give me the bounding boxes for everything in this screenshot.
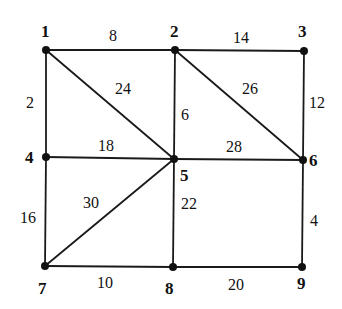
node-label-7: 7 bbox=[38, 279, 47, 298]
node-label-3: 3 bbox=[298, 22, 307, 41]
edge-weight-5-6: 28 bbox=[226, 138, 242, 155]
edge-6-9 bbox=[302, 160, 303, 267]
edge-5-7 bbox=[45, 159, 174, 266]
node-label-6: 6 bbox=[309, 151, 318, 170]
node-label-4: 4 bbox=[25, 148, 34, 167]
edge-weight-4-5: 18 bbox=[98, 137, 114, 154]
edge-weight-2-3: 14 bbox=[233, 29, 249, 46]
edge-weight-5-8: 22 bbox=[181, 195, 197, 212]
edge-5-6 bbox=[174, 159, 303, 160]
node-3 bbox=[300, 47, 308, 55]
edge-4-7 bbox=[45, 157, 46, 266]
node-6 bbox=[299, 156, 307, 164]
edge-weight-2-5: 6 bbox=[181, 106, 189, 123]
edge-weight-3-6: 12 bbox=[309, 94, 325, 111]
node-2 bbox=[171, 46, 179, 54]
node-1 bbox=[42, 46, 50, 54]
node-label-8: 8 bbox=[165, 279, 174, 298]
edge-weight-6-9: 4 bbox=[310, 212, 318, 229]
edge-5-8 bbox=[173, 159, 174, 267]
node-9 bbox=[298, 263, 306, 271]
edge-2-5 bbox=[174, 50, 175, 159]
node-7 bbox=[41, 262, 49, 270]
node-5 bbox=[170, 155, 178, 163]
edge-weight-8-9: 20 bbox=[228, 276, 244, 293]
edge-3-6 bbox=[303, 51, 304, 160]
edge-weight-2-6: 26 bbox=[242, 80, 258, 97]
node-label-1: 1 bbox=[41, 22, 50, 41]
edge-weight-1-4: 2 bbox=[26, 94, 34, 111]
node-label-9: 9 bbox=[297, 274, 306, 293]
edge-weight-7-8: 10 bbox=[97, 274, 113, 291]
node-4 bbox=[42, 153, 50, 161]
edge-weight-1-2: 8 bbox=[109, 27, 117, 44]
edge-weight-4-7: 16 bbox=[20, 209, 36, 226]
edge-2-3 bbox=[175, 50, 304, 51]
edge-7-8 bbox=[45, 266, 173, 267]
edge-4-5 bbox=[46, 157, 174, 159]
edge-weight-5-7: 30 bbox=[83, 194, 99, 211]
edge-weight-1-5: 24 bbox=[115, 80, 131, 97]
node-8 bbox=[169, 263, 177, 271]
weighted-graph: 81422462612182816302241020 123456789 bbox=[0, 0, 342, 309]
node-label-5: 5 bbox=[180, 166, 189, 185]
node-label-2: 2 bbox=[170, 22, 179, 41]
